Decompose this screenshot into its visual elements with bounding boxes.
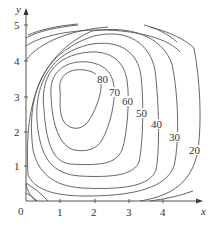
y-tick-3: 3 — [14, 91, 20, 103]
contour-labels: 80 70 60 50 40 30 20 — [96, 73, 202, 156]
contour-label-40: 40 — [151, 118, 163, 130]
contour-label-80: 80 — [97, 73, 109, 85]
contour-80 — [60, 70, 101, 129]
x-tick-2: 2 — [91, 206, 97, 218]
y-tick-2: 2 — [14, 126, 20, 138]
y-axis-arrow-icon — [24, 8, 29, 15]
x-tick-1: 1 — [57, 206, 63, 218]
contour-lines — [26, 24, 200, 201]
contour-label-70: 70 — [109, 86, 121, 98]
origin-label: 0 — [18, 205, 24, 217]
contour-60 — [43, 52, 128, 165]
y-tick-5: 5 — [14, 19, 20, 31]
contour-label-20: 20 — [189, 144, 201, 156]
contour-outer-left-1 — [26, 30, 180, 52]
contour-50 — [37, 43, 143, 176]
x-tick-3: 3 — [126, 206, 132, 218]
x-axis-label: x — [200, 205, 206, 217]
contour-plot: 0 1 2 3 4 x 1 2 3 4 5 y 80 — [0, 0, 216, 228]
y-tick-4: 4 — [14, 55, 20, 67]
contour-label-30: 30 — [169, 131, 181, 143]
y-axis-label: y — [15, 3, 21, 15]
contour-label-50: 50 — [136, 107, 148, 119]
y-tick-1: 1 — [14, 160, 20, 172]
x-tick-4: 4 — [160, 206, 166, 218]
contour-label-60: 60 — [122, 95, 134, 107]
contour-bottom-right — [150, 191, 193, 201]
